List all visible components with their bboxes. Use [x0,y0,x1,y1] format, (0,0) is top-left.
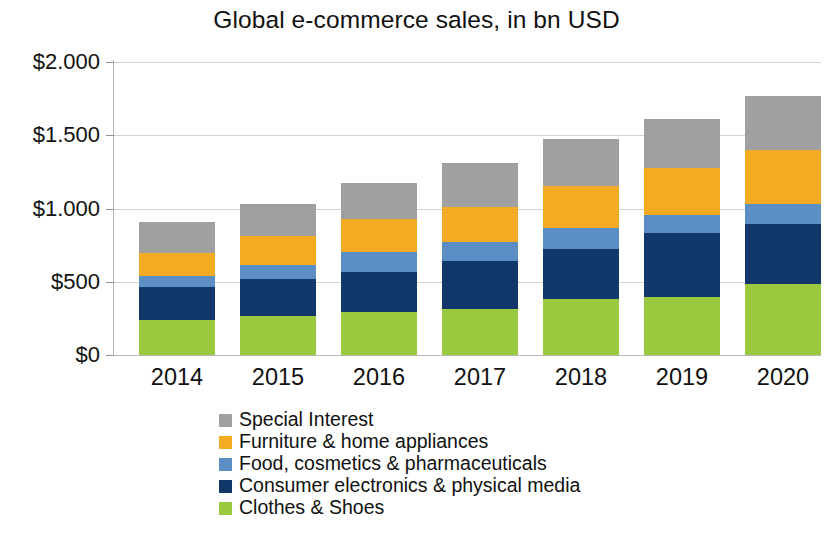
bar-segment[interactable] [543,186,619,228]
bar-group[interactable] [341,183,417,355]
legend-item[interactable]: Food, cosmetics & pharmaceuticals [219,453,580,475]
bar-group[interactable] [543,139,619,355]
legend-item[interactable]: Special Interest [219,409,580,431]
bar-segment[interactable] [442,163,518,207]
bar-segment[interactable] [543,139,619,186]
bar-segment[interactable] [139,320,215,355]
bar-segment[interactable] [644,297,720,355]
x-axis-label: 2020 [723,364,833,391]
y-axis-label: $500 [51,269,100,295]
gridline [114,355,821,356]
chart-title: Global e-commerce sales, in bn USD [0,6,833,34]
bar-segment[interactable] [240,204,316,236]
legend-label: Furniture & home appliances [239,432,488,452]
bar-segment[interactable] [139,222,215,253]
bar-segment[interactable] [644,168,720,215]
bar-segment[interactable] [745,224,821,284]
bar-segment[interactable] [442,242,518,261]
legend-swatch-icon [219,458,232,471]
chart-legend: Special InterestFurniture & home applian… [219,409,580,519]
bar-segment[interactable] [745,150,821,204]
bar-segment[interactable] [442,261,518,309]
bar-segment[interactable] [139,276,215,287]
y-axis-label: $1.000 [33,196,100,222]
legend-item[interactable]: Furniture & home appliances [219,431,580,453]
legend-swatch-icon [219,502,232,515]
legend-label: Clothes & Shoes [239,498,384,518]
bar-segment[interactable] [543,299,619,355]
bar-segment[interactable] [442,207,518,242]
bar-segment[interactable] [139,287,215,320]
bar-group[interactable] [240,204,316,355]
bar-segment[interactable] [442,309,518,355]
page-edge [0,531,833,544]
bar-segment[interactable] [240,316,316,355]
bar-segment[interactable] [644,233,720,297]
gridline [114,62,821,63]
bar-group[interactable] [139,222,215,355]
y-axis-tick [106,209,114,210]
y-axis-tick [106,135,114,136]
bar-segment[interactable] [240,236,316,265]
legend-label: Consumer electronics & physical media [239,476,580,496]
y-axis-label: $2.000 [33,49,100,75]
legend-item[interactable]: Clothes & Shoes [219,497,580,519]
stacked-bar-chart: Global e-commerce sales, in bn USD $0$50… [0,0,833,544]
bar-segment[interactable] [341,272,417,312]
bar-segment[interactable] [543,228,619,249]
y-axis-tick [106,355,114,356]
bar-segment[interactable] [745,284,821,355]
bar-segment[interactable] [341,312,417,355]
bar-segment[interactable] [341,252,417,272]
legend-label: Food, cosmetics & pharmaceuticals [239,454,547,474]
plot-area [114,62,821,355]
legend-item[interactable]: Consumer electronics & physical media [219,475,580,497]
bar-segment[interactable] [139,253,215,276]
y-axis-labels: $0$500$1.000$1.500$2.000 [0,0,100,544]
legend-swatch-icon [219,414,232,427]
y-axis-tick [106,282,114,283]
bar-segment[interactable] [644,215,720,233]
y-axis-tick [106,62,114,63]
bar-segment[interactable] [745,204,821,224]
bar-segment[interactable] [745,96,821,150]
bar-group[interactable] [442,163,518,355]
bar-segment[interactable] [240,279,316,316]
y-axis-label: $1.500 [33,122,100,148]
bar-segment[interactable] [341,219,417,252]
bar-group[interactable] [644,119,720,355]
bar-segment[interactable] [240,265,316,279]
legend-swatch-icon [219,436,232,449]
y-axis-label: $0 [76,342,100,368]
bar-segment[interactable] [543,249,619,299]
bar-segment[interactable] [341,183,417,219]
bar-segment[interactable] [644,119,720,168]
legend-swatch-icon [219,480,232,493]
legend-label: Special Interest [239,410,373,430]
bar-group[interactable] [745,96,821,355]
